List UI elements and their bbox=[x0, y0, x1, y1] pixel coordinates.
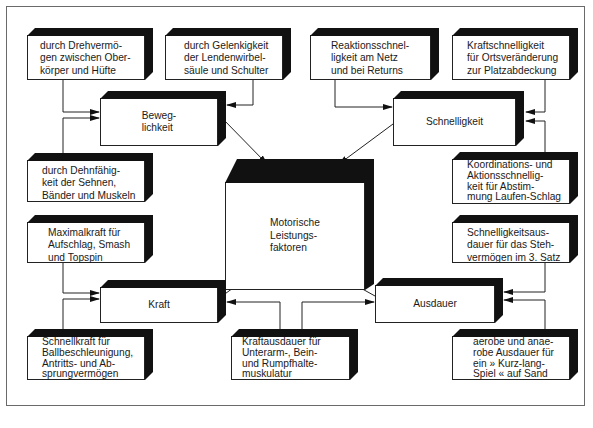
box-aerobe: aerobe und anae- robe Ausdauer für ein »… bbox=[452, 336, 570, 380]
box-kraftschnelligkeit: Kraftschnelligkeit für Ortsveränderung z… bbox=[452, 35, 570, 80]
label-ausdauer: Ausdauer bbox=[413, 298, 457, 310]
box-maximalkraft: Maximalkraft für Aufschlag, Smash und To… bbox=[27, 222, 145, 263]
label-aerobe: aerobe und anae- robe Ausdauer für ein »… bbox=[453, 337, 569, 380]
label-kraft: Kraft bbox=[148, 299, 170, 311]
box-koordination: Koordinations- und Aktionsschnellig- kei… bbox=[452, 159, 570, 204]
label-schnellkraft: Schnellkraft für Ballbeschleunigung, Ant… bbox=[28, 337, 144, 380]
label-dehnfaehigkeit: durch Dehnfähig- keit der Sehnen, Bänder… bbox=[28, 165, 144, 202]
connector-gelenkigkeit bbox=[227, 80, 253, 105]
connector-reaktion bbox=[335, 80, 392, 107]
box-schnelligkeitsausdauer: Schnelligkeitsaus- dauer für das Steh- v… bbox=[452, 222, 570, 263]
label-schnelligkeit: Schnelligkeit bbox=[426, 116, 483, 128]
box-schnelligkeit: Schnelligkeit bbox=[393, 98, 516, 146]
label-schnelligkeitsausdauer: Schnelligkeitsaus- dauer für das Steh- v… bbox=[453, 227, 569, 264]
connector-maximalkraft bbox=[63, 262, 99, 293]
label-koordination: Koordinations- und Aktionsschnellig- kei… bbox=[453, 160, 569, 203]
box-center: Motorische Leistungs- faktoren bbox=[225, 182, 365, 290]
connector-schnelligkeitsausdauer bbox=[504, 262, 545, 292]
box-beweglichkeit: Beweg- lichkeit bbox=[100, 98, 218, 146]
box-kraft: Kraft bbox=[100, 287, 218, 323]
label-maximalkraft: Maximalkraft für Aufschlag, Smash und To… bbox=[28, 227, 144, 264]
label-beweglichkeit: Beweg- lichkeit bbox=[142, 110, 177, 135]
box-dehnfaehigkeit: durch Dehnfähig- keit der Sehnen, Bänder… bbox=[27, 160, 145, 202]
box-drehvermoegen: durch Drehvermö- gen zwischen Ober- körp… bbox=[27, 35, 145, 80]
connector-schnelligkeit-center bbox=[339, 124, 393, 164]
label-reaktion: Reaktionsschnel- ligkeit am Netz und bei… bbox=[311, 40, 430, 77]
label-gelenkigkeit: durch Gelenkigkeit der Lendenwirbel- säu… bbox=[166, 40, 282, 77]
label-drehvermoegen: durch Drehvermö- gen zwischen Ober- körp… bbox=[28, 40, 144, 77]
connector-beweglichkeit-center bbox=[222, 118, 267, 164]
label-center: Motorische Leistungs- faktoren bbox=[270, 217, 320, 254]
label-kraftschnelligkeit: Kraftschnelligkeit für Ortsveränderung z… bbox=[453, 40, 569, 77]
connector-kraftschnelligkeit bbox=[526, 80, 545, 112]
box-reaktion: Reaktionsschnel- ligkeit am Netz und bei… bbox=[310, 35, 431, 80]
box-kraftausdauer: Kraftausdauer für Unterarm-, Bein- und R… bbox=[231, 336, 350, 380]
label-kraftausdauer: Kraftausdauer für Unterarm-, Bein- und R… bbox=[232, 337, 349, 380]
box-ausdauer: Ausdauer bbox=[375, 285, 495, 323]
box-gelenkigkeit: durch Gelenkigkeit der Lendenwirbel- säu… bbox=[165, 35, 283, 80]
connector-drehvermoegen bbox=[63, 80, 99, 112]
box-schnellkraft: Schnellkraft für Ballbeschleunigung, Ant… bbox=[27, 336, 145, 380]
